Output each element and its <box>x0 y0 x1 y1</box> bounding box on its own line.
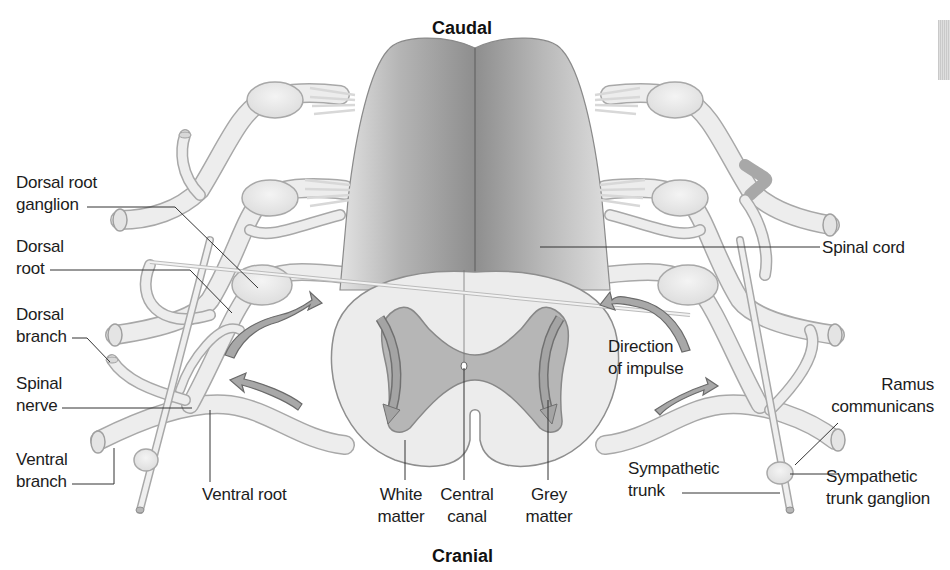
ganglion-upper-left <box>247 82 303 118</box>
label-sympathetic-trunk: Sympathetic trunk <box>628 458 719 502</box>
orientation-caudal: Caudal <box>432 18 492 39</box>
nerves-left <box>100 93 345 510</box>
label-direction-of-impulse: Direction of impulse <box>608 336 683 380</box>
page-edge-tab <box>938 20 950 80</box>
sympathetic-ganglion-left <box>134 449 158 471</box>
label-ventral-root: Ventral root <box>202 484 287 506</box>
label-sympathetic-trunk-ganglion: Sympathetic trunk ganglion <box>826 466 930 510</box>
label-dorsal-root-ganglion: Dorsal root ganglion <box>16 172 97 216</box>
label-grey-matter: Grey matter <box>514 484 584 528</box>
label-central-canal: Central canal <box>432 484 502 528</box>
label-white-matter: White matter <box>362 484 440 528</box>
label-ramus-communicans: Ramus communicans <box>810 374 934 418</box>
sympathetic-ganglion-right <box>767 462 793 484</box>
label-dorsal-root: Dorsal root <box>16 236 64 280</box>
ganglion-middle-left <box>242 180 298 216</box>
label-spinal-nerve: Spinal nerve <box>16 373 62 417</box>
label-spinal-cord: Spinal cord <box>822 237 905 259</box>
label-ventral-branch: Ventral branch <box>16 449 68 493</box>
label-dorsal-branch: Dorsal branch <box>16 304 67 348</box>
spinal-cord-diagram: Caudal Cranial Dorsal root ganglion Dors… <box>0 0 950 570</box>
orientation-cranial: Cranial <box>432 546 493 567</box>
spinal-cord-column <box>305 38 645 290</box>
